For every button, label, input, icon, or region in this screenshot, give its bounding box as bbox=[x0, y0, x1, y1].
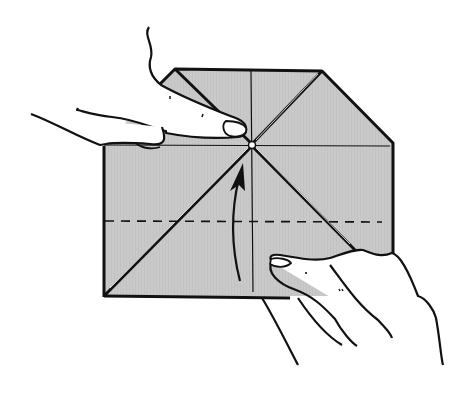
center-point bbox=[249, 142, 256, 149]
right-fingernail bbox=[270, 258, 291, 267]
diagram-canvas bbox=[0, 0, 471, 401]
right-hand-outline bbox=[270, 250, 443, 365]
paper-bottom-edge bbox=[104, 296, 290, 298]
right-hand-lifting-bottom-edge bbox=[262, 250, 443, 365]
origami-diagram: Hands holding a folded paper; arrow indi… bbox=[0, 0, 471, 401]
right-lower-finger bbox=[262, 298, 298, 365]
knuckle-mark bbox=[202, 114, 203, 117]
